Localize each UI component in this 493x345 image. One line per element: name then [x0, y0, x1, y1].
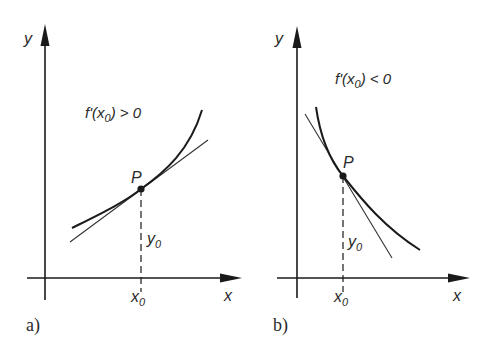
derivative-sign-diagram: y x f'(x0) > 0 P y0 x0 a) y x f'(x0) < 0	[0, 0, 493, 345]
y-axis-arrow-icon	[41, 24, 50, 46]
y-axis-arrow-icon	[293, 26, 302, 48]
condition-label-a: f'(x0) > 0	[85, 104, 142, 124]
x-axis-a	[27, 274, 242, 283]
x-axis-label-b: x	[452, 287, 462, 304]
point-p-a	[137, 185, 144, 192]
y-axis-a	[41, 24, 50, 300]
point-p-b	[339, 172, 346, 179]
point-p-label-b: P	[343, 154, 354, 171]
x-axis-arrow-icon	[448, 274, 470, 283]
panel-label-a: a)	[26, 315, 40, 336]
y-axis-label-a: y	[23, 30, 33, 47]
x-axis-b	[277, 274, 470, 283]
x0-label-b: x0	[333, 288, 349, 308]
function-curve-b	[316, 107, 420, 250]
panel-a: y x f'(x0) > 0 P y0 x0 a)	[23, 24, 242, 336]
point-p-label-a: P	[131, 169, 142, 186]
panel-b: y x f'(x0) < 0 P y0 x0 b)	[273, 26, 470, 336]
condition-label-b: f'(x0) < 0	[335, 70, 392, 90]
y-axis-b	[293, 26, 302, 298]
y0-label-b: y0	[347, 233, 363, 253]
x-axis-arrow-icon	[220, 274, 242, 283]
panel-label-b: b)	[273, 315, 288, 336]
x-axis-label-a: x	[223, 287, 233, 304]
y-axis-label-b: y	[274, 30, 284, 47]
x0-label-a: x0	[130, 288, 146, 308]
y0-label-a: y0	[146, 230, 162, 250]
